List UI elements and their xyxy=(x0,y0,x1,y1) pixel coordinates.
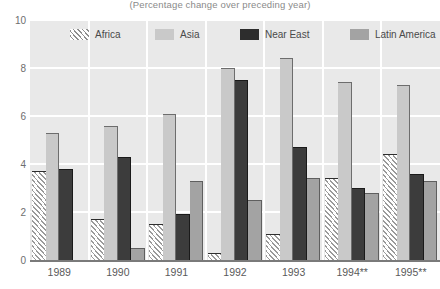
bar xyxy=(176,214,190,260)
x-tick-label: 1991 xyxy=(165,266,188,278)
legend-label: Africa xyxy=(95,29,121,40)
bar xyxy=(266,234,280,260)
bar xyxy=(149,224,163,260)
gridline xyxy=(205,20,207,260)
legend-swatch-icon xyxy=(240,29,259,40)
legend-label: Asia xyxy=(180,29,199,40)
x-tick-label: 1990 xyxy=(106,266,129,278)
gridline xyxy=(88,20,90,260)
legend-item: Asia xyxy=(155,26,199,42)
legend-swatch-icon xyxy=(350,29,369,40)
legend-label: Latin America xyxy=(375,29,436,40)
y-tick-label: 2 xyxy=(2,207,26,218)
bar xyxy=(59,169,73,260)
gridline xyxy=(146,20,148,260)
chart-legend: AfricaAsiaNear EastLatin America xyxy=(30,26,440,42)
y-tick-label: 6 xyxy=(2,111,26,122)
legend-item: Africa xyxy=(70,26,121,42)
bar-chart: (Percentage change over preceding year) … xyxy=(0,0,440,289)
bar xyxy=(293,147,307,260)
legend-swatch-icon xyxy=(155,29,174,40)
bar xyxy=(190,181,204,260)
plot-area xyxy=(30,20,440,260)
bar xyxy=(352,188,366,260)
bar xyxy=(280,58,294,260)
gridline xyxy=(30,67,440,69)
bar xyxy=(131,248,145,260)
gridline xyxy=(30,20,440,21)
legend-label: Near East xyxy=(265,29,309,40)
bar xyxy=(32,171,46,260)
gridline xyxy=(322,20,324,260)
legend-item: Latin America xyxy=(350,26,436,42)
bar xyxy=(424,181,438,260)
bar xyxy=(91,219,105,260)
bar xyxy=(104,126,118,260)
bar xyxy=(397,85,411,260)
chart-title: (Percentage change over preceding year) xyxy=(0,0,440,10)
bar xyxy=(338,82,352,260)
y-tick-label: 4 xyxy=(2,159,26,170)
bar xyxy=(235,80,249,260)
y-tick-label: 8 xyxy=(2,63,26,74)
bar xyxy=(365,193,379,260)
bar xyxy=(248,200,262,260)
bar xyxy=(208,253,222,260)
bar xyxy=(118,157,132,260)
x-tick-label: 1993 xyxy=(282,266,305,278)
y-tick-label: 10 xyxy=(2,15,26,26)
gridline xyxy=(380,20,382,260)
x-tick-label: 1995** xyxy=(395,266,427,278)
bar xyxy=(307,178,321,260)
x-tick-label: 1989 xyxy=(48,266,71,278)
bar xyxy=(410,174,424,260)
bar xyxy=(383,154,397,260)
legend-swatch-icon xyxy=(70,29,89,40)
x-axis-line xyxy=(30,260,440,262)
bar xyxy=(163,114,177,260)
x-tick-label: 1994** xyxy=(336,266,368,278)
gridline xyxy=(263,20,265,260)
bar xyxy=(221,68,235,260)
x-tick-label: 1992 xyxy=(223,266,246,278)
bar xyxy=(325,178,339,260)
y-tick-label: 0 xyxy=(2,255,26,266)
bar xyxy=(46,133,60,260)
legend-item: Near East xyxy=(240,26,309,42)
